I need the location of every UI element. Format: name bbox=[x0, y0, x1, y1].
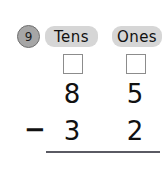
regroup-box-ones[interactable] bbox=[126, 54, 146, 74]
problem-number-badge: 9 bbox=[17, 25, 40, 48]
subtraction-problem-worksheet: 9 Tens Ones 8 5 − 3 2 bbox=[0, 0, 165, 178]
column-header-ones: Ones bbox=[112, 26, 162, 47]
regroup-box-tens[interactable] bbox=[63, 54, 83, 74]
subtrahend-digit-ones: 2 bbox=[120, 118, 150, 144]
minus-operator-icon: − bbox=[24, 116, 46, 142]
subtrahend-digit-tens: 3 bbox=[57, 118, 87, 144]
answer-rule-divider bbox=[46, 151, 160, 153]
column-header-tens: Tens bbox=[45, 26, 98, 47]
minuend-digit-ones: 5 bbox=[120, 81, 150, 107]
minuend-digit-tens: 8 bbox=[57, 81, 87, 107]
